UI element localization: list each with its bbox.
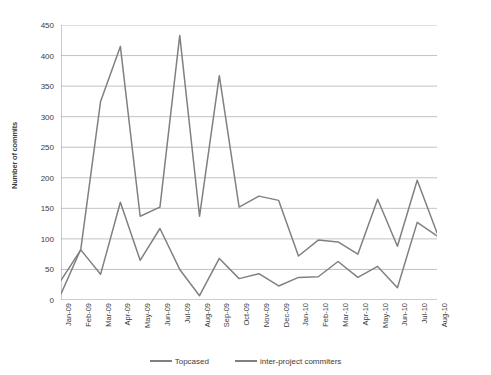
y-tick-label: 350: [41, 82, 54, 91]
plot-area: [61, 25, 437, 300]
x-axis-tick-labels: Jan-09Feb-09Mar-09Apr-09May-09Jun-09Jul-…: [61, 302, 437, 348]
y-tick-label: 150: [41, 204, 54, 213]
x-tick-label: Jul-09: [183, 302, 192, 322]
y-tick-label: 250: [41, 143, 54, 152]
x-tick-label: Apr-10: [361, 302, 370, 325]
y-axis-title-label: Number of commits: [11, 121, 20, 188]
plot-svg: [61, 25, 437, 300]
legend-label: Topcased: [175, 357, 209, 366]
series-lines: [61, 35, 437, 295]
x-tick-label: Aug-09: [203, 302, 212, 326]
y-tick-label: 0: [50, 296, 54, 305]
x-tick-label: Jun-09: [163, 302, 172, 325]
y-tick-label: 400: [41, 51, 54, 60]
x-tick-label: Jan-09: [64, 302, 73, 325]
x-tick-label: May-09: [143, 302, 152, 327]
y-axis-tick-labels: 050100150200250300350400450: [28, 0, 58, 375]
x-tick-label: Aug-10: [440, 302, 449, 326]
x-tick-label: Jun-10: [400, 302, 409, 325]
legend-item: inter-project commiters: [235, 357, 341, 366]
commits-line-chart: Number of commits 0501001502002503003504…: [0, 0, 491, 375]
x-tick-label: Mar-10: [341, 302, 350, 326]
x-tick-label: Jul-10: [420, 302, 429, 322]
legend-label: inter-project commiters: [260, 357, 341, 366]
axis-lines: [61, 25, 437, 300]
x-tick-label: Jan-10: [301, 302, 310, 325]
x-tick-label: Nov-09: [262, 302, 271, 326]
y-tick-label: 450: [41, 21, 54, 30]
legend-item: Topcased: [150, 357, 209, 366]
y-axis-title: Number of commits: [0, 0, 30, 310]
y-tick-label: 200: [41, 173, 54, 182]
x-tick-label: Dec-09: [282, 302, 291, 326]
x-tick-label: Feb-10: [321, 302, 330, 326]
x-tick-label: Sep-09: [222, 302, 231, 326]
y-tick-label: 100: [41, 234, 54, 243]
x-tick-label: Oct-09: [242, 302, 251, 325]
x-tick-label: Apr-09: [123, 302, 132, 325]
chart-legend: Topcasedinter-project commiters: [0, 352, 491, 370]
y-tick-label: 300: [41, 112, 54, 121]
x-tick-label: Mar-09: [104, 302, 113, 326]
series-line-1: [61, 35, 437, 294]
legend-swatch: [150, 360, 172, 362]
legend-swatch: [235, 360, 257, 362]
x-tick-label: Feb-09: [84, 302, 93, 326]
y-tick-label: 50: [45, 265, 54, 274]
gridlines: [61, 25, 437, 269]
series-line-2: [61, 202, 437, 296]
x-tick-label: May-10: [381, 302, 390, 327]
